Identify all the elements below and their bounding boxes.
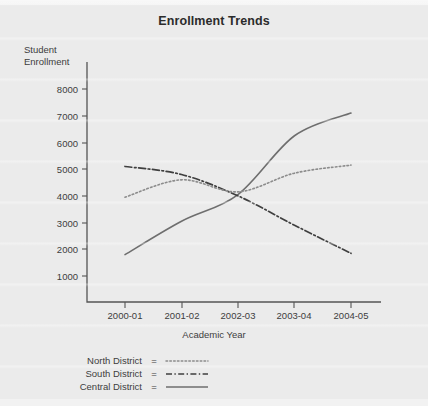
page-bottom-edge bbox=[0, 399, 428, 406]
y-tick-6000: 6000 bbox=[57, 138, 78, 149]
axis-lines bbox=[87, 62, 381, 302]
series-lines bbox=[125, 113, 351, 255]
y-axis-ticks: 8000 7000 6000 5000 4000 3000 2000 1000 bbox=[57, 84, 87, 282]
legend-swatch-central-district bbox=[164, 381, 210, 392]
axes bbox=[87, 62, 381, 302]
legend-label-central-district: Central District bbox=[58, 381, 148, 392]
legend-swatch-north-district bbox=[164, 355, 210, 366]
x-tick-2000-01: 2000-01 bbox=[108, 310, 143, 321]
legend-item-central-district: Central District = bbox=[58, 380, 210, 393]
x-axis-ticks: 2000-01 2001-02 2002-03 2003-04 2004-05 bbox=[108, 302, 369, 321]
page-top-edge bbox=[0, 0, 428, 5]
y-tick-5000: 5000 bbox=[57, 164, 78, 175]
legend-label-north-district: North District bbox=[58, 355, 148, 366]
x-tick-2004-05: 2004-05 bbox=[334, 310, 369, 321]
y-tick-4000: 4000 bbox=[57, 191, 78, 202]
x-tick-2001-02: 2001-02 bbox=[165, 310, 200, 321]
chart-legend: North District = South District = Centra… bbox=[58, 354, 210, 393]
x-tick-2003-04: 2003-04 bbox=[277, 310, 312, 321]
legend-separator: = bbox=[148, 368, 160, 379]
x-tick-2002-03: 2002-03 bbox=[221, 310, 256, 321]
y-tick-1000: 1000 bbox=[57, 271, 78, 282]
legend-swatch-south-district bbox=[164, 368, 210, 379]
legend-item-north-district: North District = bbox=[58, 354, 210, 367]
y-tick-7000: 7000 bbox=[57, 111, 78, 122]
series-line-south-district bbox=[125, 166, 351, 253]
legend-label-south-district: South District bbox=[58, 368, 148, 379]
y-tick-8000: 8000 bbox=[57, 84, 78, 95]
legend-separator: = bbox=[148, 355, 160, 366]
legend-separator: = bbox=[148, 381, 160, 392]
plot-area: 8000 7000 6000 5000 4000 3000 2000 1000 … bbox=[0, 0, 428, 406]
legend-item-south-district: South District = bbox=[58, 367, 210, 380]
x-axis-title: Academic Year bbox=[0, 329, 428, 340]
y-tick-3000: 3000 bbox=[57, 218, 78, 229]
y-tick-2000: 2000 bbox=[57, 244, 78, 255]
enrollment-trends-chart: Enrollment Trends Student Enrollment 800… bbox=[0, 0, 428, 406]
